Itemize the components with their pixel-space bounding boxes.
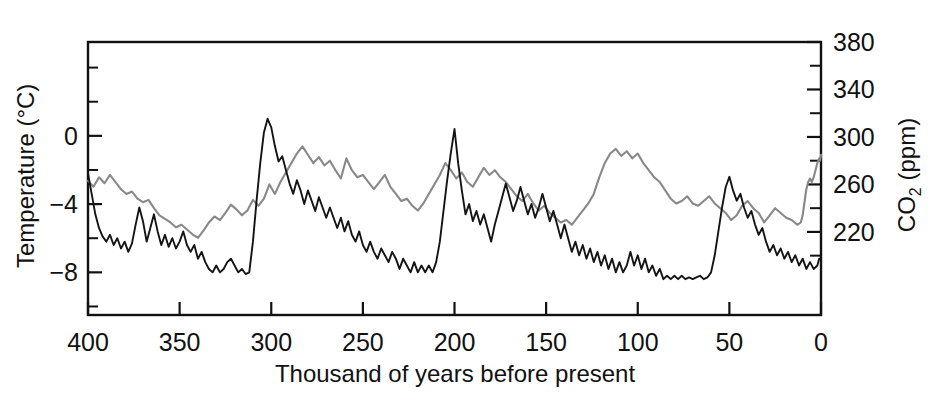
- svg-text:CO2 (ppm): CO2 (ppm): [893, 118, 924, 232]
- x-tick-label: 150: [525, 328, 567, 356]
- right-tick-label: 380: [833, 28, 875, 56]
- right-tick-label: 260: [833, 170, 875, 198]
- left-tick-label: 0: [64, 122, 78, 150]
- right-tick-label: 340: [833, 75, 875, 103]
- right-axis-title-main: CO: [893, 196, 920, 232]
- right-tick-label: 220: [833, 218, 875, 246]
- x-tick-label: 350: [159, 328, 201, 356]
- right-axis-title-tail: (ppm): [893, 118, 920, 187]
- right-axis-title-subscript: 2: [907, 187, 924, 196]
- x-tick-label: 0: [814, 328, 828, 356]
- left-axis-title: Temperature (°C): [12, 84, 39, 268]
- x-tick-label: 200: [434, 328, 476, 356]
- left-tick-label: −4: [49, 190, 78, 218]
- x-tick-label: 300: [250, 328, 292, 356]
- chart-page: 0−4−8 380340300260220 400350300250200150…: [0, 0, 947, 401]
- left-tick-label: −8: [49, 258, 78, 286]
- x-tick-label: 400: [67, 328, 109, 356]
- x-axis-title: Thousand of years before present: [275, 360, 636, 387]
- x-tick-label: 100: [617, 328, 659, 356]
- vostok-ice-core-chart: 0−4−8 380340300260220 400350300250200150…: [0, 0, 947, 401]
- right-tick-label: 300: [833, 123, 875, 151]
- x-tick-label: 250: [342, 328, 384, 356]
- x-tick-label: 50: [715, 328, 743, 356]
- right-axis-title: CO2 (ppm): [893, 118, 924, 232]
